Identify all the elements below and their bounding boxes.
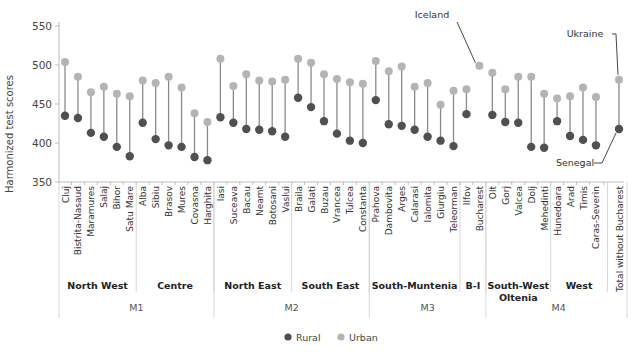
y-tick-label: 550 xyxy=(32,20,52,32)
category-label: Total without Bucharest xyxy=(615,186,625,293)
rural-point xyxy=(398,122,406,130)
urban-point xyxy=(346,78,354,86)
axes xyxy=(59,22,624,185)
category-label: Alba xyxy=(138,186,148,206)
urban-point xyxy=(527,73,535,81)
category-label: Galati xyxy=(307,186,317,213)
category-label: Arad xyxy=(566,186,576,207)
urban-point xyxy=(100,83,108,91)
annotation-ukraine: Ukraine xyxy=(567,28,604,39)
urban-point xyxy=(514,73,522,81)
category-label: Valcea xyxy=(514,186,524,215)
rural-point xyxy=(488,111,496,119)
urban-point xyxy=(333,75,341,83)
urban-point xyxy=(615,76,623,84)
category-label: Cluj xyxy=(61,186,71,203)
rural-point xyxy=(100,133,108,141)
region-label: South East xyxy=(302,280,360,291)
urban-point xyxy=(579,84,587,92)
macroregion-label: M2 xyxy=(285,302,299,313)
rural-point xyxy=(385,120,393,128)
urban-point xyxy=(566,92,574,100)
rural-point xyxy=(281,133,289,141)
category-label: Iasi xyxy=(216,186,226,201)
urban-point xyxy=(139,77,147,85)
rural-point xyxy=(307,103,315,111)
urban-point xyxy=(178,84,186,92)
urban-point xyxy=(320,70,328,78)
category-label: Buzau xyxy=(320,186,330,214)
urban-point xyxy=(540,90,548,98)
rural-point xyxy=(501,118,509,126)
y-tick-label: 350 xyxy=(32,176,52,188)
rural-point xyxy=(372,96,380,104)
macroregion-label: M1 xyxy=(129,302,143,313)
category-label: Botosani xyxy=(268,186,278,225)
category-label: Neamt xyxy=(255,186,265,217)
rural-point xyxy=(566,132,574,140)
y-axis-ticks: 350400450500550 xyxy=(32,20,59,188)
category-label: Dambovita xyxy=(384,186,394,235)
rural-point xyxy=(346,136,354,144)
rural-point xyxy=(74,114,82,122)
rural-point xyxy=(527,143,535,151)
annotation-leader-line xyxy=(457,22,475,63)
category-label: Arges xyxy=(397,186,407,212)
macroregion-labels: M1M2M3M4 xyxy=(129,302,565,313)
category-label: Ialomita xyxy=(423,186,433,223)
y-tick-label: 400 xyxy=(32,137,52,149)
category-label: Brasov xyxy=(164,185,174,217)
category-label: Calarasi xyxy=(410,186,420,222)
legend-rural-marker xyxy=(284,333,291,340)
urban-point xyxy=(152,79,160,87)
region-label: South-Muntenia xyxy=(372,280,458,291)
region-label: Oltenia xyxy=(499,292,538,303)
rural-point xyxy=(87,129,95,137)
urban-point xyxy=(281,76,289,84)
rural-point xyxy=(126,152,134,160)
y-axis-label: Harmonized test scores xyxy=(4,75,15,193)
rural-point xyxy=(190,153,198,161)
rural-point xyxy=(320,117,328,125)
y-tick-label: 450 xyxy=(32,98,52,110)
category-label: Maramures xyxy=(86,186,96,237)
category-label: Bistrita-Nasaud xyxy=(73,186,83,255)
category-label: Caras-Severin xyxy=(591,186,601,249)
rural-point xyxy=(359,139,367,147)
region-label: South-West xyxy=(487,280,549,291)
urban-point xyxy=(411,83,419,91)
urban-point xyxy=(501,85,509,93)
category-label: Prahova xyxy=(371,186,381,223)
rural-point xyxy=(139,119,147,127)
urban-point xyxy=(372,57,380,65)
rural-point xyxy=(553,117,561,125)
region-label: Centre xyxy=(157,280,193,291)
urban-point xyxy=(450,87,458,95)
urban-point xyxy=(74,73,82,81)
category-label: Olt xyxy=(488,186,498,200)
rural-point xyxy=(177,143,185,151)
macroregion-label: M3 xyxy=(420,302,434,313)
category-label: Giurgiu xyxy=(436,186,446,219)
urban-point xyxy=(87,88,95,96)
category-label: Mures xyxy=(177,186,187,214)
category-labels: ClujBistrita-NasaudMaramuresSalajBihorSa… xyxy=(61,185,625,293)
urban-point xyxy=(113,90,121,98)
annotation-leader-line xyxy=(612,34,618,75)
region-label: North East xyxy=(224,280,281,291)
rural-point xyxy=(268,127,276,135)
urban-point xyxy=(165,73,173,81)
rural-point xyxy=(294,94,302,102)
rural-point xyxy=(514,119,522,127)
rural-point xyxy=(242,125,250,133)
urban-point xyxy=(398,63,406,71)
category-label: Covasna xyxy=(190,186,200,225)
legend-urban-label: Urban xyxy=(349,332,378,343)
rural-point xyxy=(216,113,224,121)
category-label: Vaslui xyxy=(281,186,291,212)
rural-point xyxy=(579,136,587,144)
urban-point xyxy=(268,77,276,85)
category-label: Bihor xyxy=(112,186,122,210)
region-labels: North WestCentreNorth EastSouth EastSout… xyxy=(67,280,593,303)
annotations: IcelandUkraineSenegal xyxy=(415,9,618,168)
